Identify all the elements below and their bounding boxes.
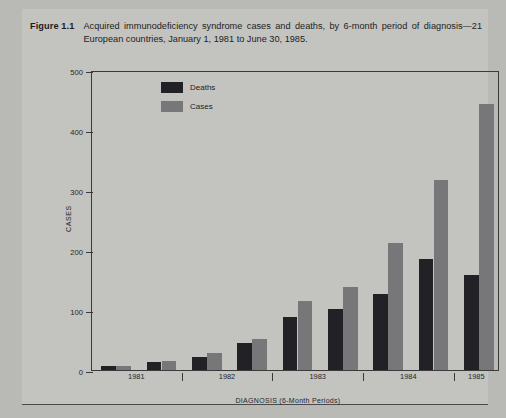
legend-label-deaths: Deaths bbox=[190, 83, 215, 93]
legend-item-deaths: Deaths bbox=[161, 82, 215, 93]
y-axis-tick bbox=[86, 312, 93, 313]
bar-chart: CASES DIAGNOSIS (6-Month Periods) 010020… bbox=[69, 62, 506, 407]
y-axis-tick-label: 100 bbox=[70, 308, 83, 317]
legend-swatch-cases bbox=[161, 101, 183, 112]
x-axis-year-label: 1984 bbox=[400, 372, 416, 381]
y-axis-title: CASES bbox=[65, 205, 72, 232]
x-axis-year-separator bbox=[272, 373, 273, 381]
bar-cases bbox=[207, 353, 222, 370]
bar-cases bbox=[162, 361, 177, 370]
bar-deaths bbox=[328, 309, 343, 370]
bar-cases bbox=[388, 243, 403, 370]
bar-deaths bbox=[373, 294, 388, 370]
y-axis-tick bbox=[86, 252, 93, 253]
bar-deaths bbox=[283, 317, 298, 370]
y-axis-tick bbox=[86, 372, 93, 373]
bar-deaths bbox=[147, 362, 162, 370]
x-axis-year-label: 1982 bbox=[219, 372, 235, 381]
y-axis-tick-label: 300 bbox=[70, 188, 83, 197]
x-axis-year-separator bbox=[182, 373, 183, 381]
bar-deaths bbox=[101, 366, 116, 370]
legend-label-cases: Cases bbox=[190, 102, 213, 112]
chart-legend: Deaths Cases bbox=[161, 82, 215, 120]
bar-deaths bbox=[237, 343, 252, 370]
x-axis-title: DIAGNOSIS (6-Month Periods) bbox=[69, 397, 506, 404]
x-axis-year-separator bbox=[363, 373, 364, 381]
x-axis-year-separator bbox=[454, 373, 455, 381]
figure-panel: Figure 1.1 Acquired immunodeficiency syn… bbox=[22, 9, 488, 404]
y-axis-tick bbox=[86, 132, 93, 133]
bar-cases bbox=[116, 366, 131, 370]
bar-cases bbox=[343, 287, 358, 370]
x-axis-year-label: 1981 bbox=[128, 372, 144, 381]
y-axis-tick-label: 500 bbox=[70, 68, 83, 77]
legend-item-cases: Cases bbox=[161, 101, 215, 112]
screenshot-page: Figure 1.1 Acquired immunodeficiency syn… bbox=[0, 0, 506, 418]
x-axis-year-label: 1985 bbox=[468, 372, 484, 381]
figure-caption: Figure 1.1 Acquired immunodeficiency syn… bbox=[30, 20, 482, 46]
bar-deaths bbox=[464, 275, 479, 370]
legend-swatch-deaths bbox=[161, 82, 183, 93]
bar-cases bbox=[252, 339, 267, 370]
bar-cases bbox=[298, 301, 313, 370]
y-axis-tick bbox=[86, 72, 93, 73]
y-axis-tick-label: 0 bbox=[79, 368, 83, 377]
bar-deaths bbox=[419, 259, 434, 370]
bar-cases bbox=[479, 104, 494, 370]
y-axis-tick-label: 400 bbox=[70, 128, 83, 137]
y-axis-tick-label: 200 bbox=[70, 248, 83, 257]
y-axis-tick bbox=[86, 192, 93, 193]
plot-area: 0100200300400500 bbox=[91, 71, 499, 371]
bar-cases bbox=[434, 180, 449, 370]
bar-deaths bbox=[192, 357, 207, 370]
figure-number: Figure 1.1 bbox=[30, 20, 74, 46]
figure-caption-text: Acquired immunodeficiency syndrome cases… bbox=[83, 20, 482, 46]
plot-inner bbox=[92, 72, 498, 370]
x-axis-year-label: 1983 bbox=[309, 372, 325, 381]
